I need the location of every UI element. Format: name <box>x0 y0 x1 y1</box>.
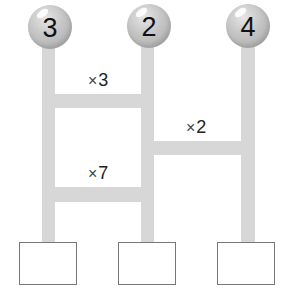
ball-number: 3 <box>42 15 57 42</box>
rung-3 <box>55 187 141 202</box>
ball-2: 2 <box>127 4 171 48</box>
answer-box-1[interactable] <box>19 242 77 285</box>
pole-2 <box>141 40 154 244</box>
rung-2-label: ×2 <box>186 118 206 136</box>
answer-box-2[interactable] <box>118 242 176 285</box>
multiplier-value: 2 <box>196 117 206 137</box>
multiplier-value: 7 <box>98 163 108 183</box>
ball-1: 3 <box>28 5 72 49</box>
rung-3-label: ×7 <box>88 164 108 182</box>
pole-3 <box>241 40 255 244</box>
answer-box-3[interactable] <box>217 242 275 285</box>
rung-1-label: ×3 <box>88 71 108 89</box>
ball-3: 4 <box>226 4 270 48</box>
pole-1 <box>42 40 55 244</box>
times-sign: × <box>88 72 97 89</box>
multiplier-value: 3 <box>98 70 108 90</box>
ball-number: 4 <box>240 14 255 41</box>
rung-2 <box>154 141 241 155</box>
times-sign: × <box>88 165 97 182</box>
rung-1 <box>55 94 141 108</box>
ball-number: 2 <box>141 14 156 41</box>
times-sign: × <box>186 119 195 136</box>
